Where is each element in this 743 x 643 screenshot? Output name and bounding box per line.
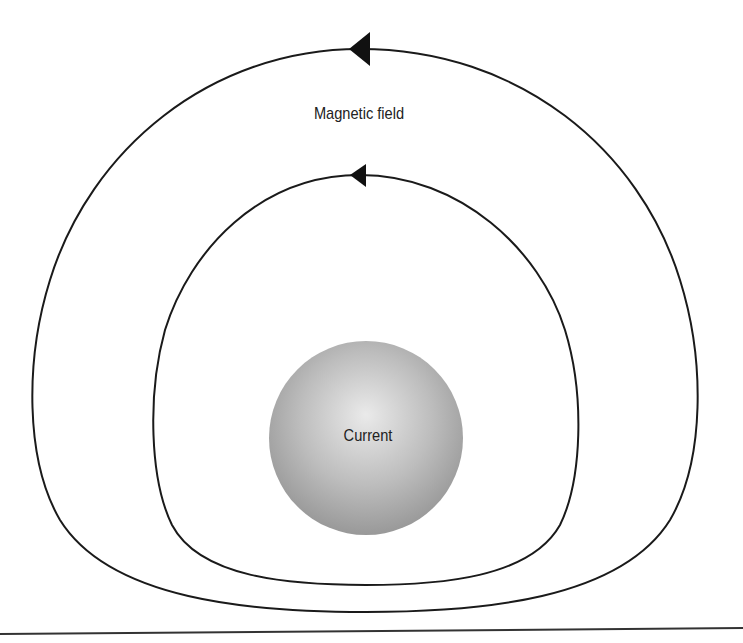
current-label: Current bbox=[325, 426, 411, 446]
outer-arrow-icon bbox=[349, 32, 370, 66]
diagram-canvas: Magnetic field Current bbox=[0, 0, 743, 643]
inner-arrow-icon bbox=[350, 164, 366, 187]
magnetic-field-label: Magnetic field bbox=[308, 104, 409, 124]
baseline-divider bbox=[0, 628, 743, 634]
field-diagram-svg bbox=[0, 0, 743, 643]
